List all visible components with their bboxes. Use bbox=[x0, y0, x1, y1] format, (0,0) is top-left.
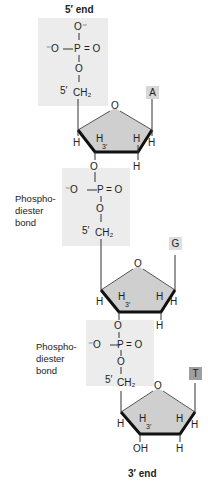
atom-h: H bbox=[117, 419, 124, 429]
atom-o-3prime: O bbox=[114, 321, 122, 331]
atom-h: H bbox=[96, 297, 103, 307]
atom-o-minus-top: O⁻ bbox=[74, 22, 87, 32]
atom-minus-o: ⁻O bbox=[46, 44, 59, 54]
atom-ch2: CH₂ bbox=[95, 228, 113, 238]
phosphodiester-bond-label-1: Phospho- diester bond bbox=[15, 193, 56, 229]
ring-oxygen: O bbox=[134, 259, 142, 269]
ring-oxygen: O bbox=[154, 381, 162, 391]
atom-h: H bbox=[73, 138, 80, 148]
five-prime-label: 5′ bbox=[60, 86, 67, 96]
three-prime-end-label: 3′ end bbox=[128, 468, 157, 479]
atom-h: H bbox=[156, 321, 163, 331]
three-prime-label: 3′ bbox=[102, 143, 107, 150]
atom-p: P bbox=[74, 44, 81, 54]
atom-h: H bbox=[148, 138, 155, 148]
atom-h: H bbox=[191, 420, 198, 430]
five-prime-label: 5′ bbox=[82, 226, 89, 236]
three-prime-label: 3′ bbox=[125, 301, 130, 308]
atom-h: H bbox=[156, 292, 163, 302]
base-t: T bbox=[189, 367, 202, 380]
atom-minus-o: ⁻O bbox=[65, 185, 78, 195]
atom-h: H bbox=[170, 297, 177, 307]
base-a: A bbox=[146, 86, 159, 99]
phosphodiester-bond-label-2: Phospho- diester bond bbox=[36, 341, 77, 377]
atom-o-3prime: O bbox=[90, 162, 98, 172]
atom-h: H bbox=[176, 444, 183, 454]
atom-o-bridge: O bbox=[75, 64, 83, 74]
atom-o-bridge: O bbox=[96, 204, 104, 214]
three-prime-label: 3′ bbox=[146, 423, 151, 430]
atom-h: H bbox=[133, 134, 140, 144]
atom-h: H bbox=[133, 162, 140, 172]
atom-p: P bbox=[117, 340, 124, 350]
ring-oxygen: O bbox=[111, 101, 119, 111]
atom-eq-o: = O bbox=[126, 340, 142, 350]
atom-eq-o: = O bbox=[84, 44, 100, 54]
atom-eq-o: = O bbox=[106, 185, 122, 195]
atom-p: P bbox=[97, 185, 104, 195]
five-prime-label: 5′ bbox=[105, 375, 112, 385]
five-prime-end-label: 5′ end bbox=[65, 4, 94, 15]
base-g: G bbox=[169, 237, 182, 250]
atom-ch2: CH₂ bbox=[73, 88, 91, 98]
atom-ch2: CH₂ bbox=[117, 378, 135, 388]
atom-minus-o: ⁻O bbox=[88, 340, 101, 350]
atom-o-bridge: O bbox=[117, 357, 125, 367]
atom-h: H bbox=[176, 414, 183, 424]
atom-oh-3prime: OH bbox=[133, 444, 148, 454]
